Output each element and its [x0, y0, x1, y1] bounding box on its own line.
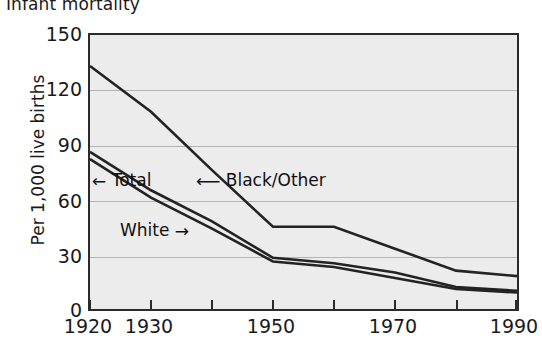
x-tick-label-1920: 1920	[53, 315, 123, 337]
annotation-total-label: Total	[112, 170, 152, 190]
chart-title: Infant mortality	[6, 0, 140, 14]
y-tick-label-60: 60	[20, 190, 82, 212]
annotation-total: ← Total	[92, 170, 151, 191]
annotation-white: White →	[120, 220, 189, 241]
infant-mortality-chart-figure: Infant mortality Per 1,000 live births 1…	[0, 0, 542, 347]
x-tick-label-1990: 1990	[479, 315, 542, 337]
annotation-white-label: White	[120, 220, 169, 240]
x-tick-label-1950: 1950	[236, 315, 306, 337]
annotation-black-other: ⟵ Black/Other	[196, 170, 326, 191]
y-tick-label-90: 90	[20, 134, 82, 156]
x-tick-label-1930: 1930	[114, 315, 184, 337]
arrow-left-icon: ←	[92, 171, 106, 191]
arrow-right-icon: →	[175, 221, 189, 241]
y-tick-label-30: 30	[20, 245, 82, 267]
y-tick-label-150: 150	[20, 23, 82, 45]
annotation-black-other-label: Black/Other	[226, 170, 326, 190]
arrow-long-left-icon: ⟵	[196, 171, 220, 191]
x-tick-label-1970: 1970	[358, 315, 428, 337]
y-tick-label-120: 120	[20, 78, 82, 100]
